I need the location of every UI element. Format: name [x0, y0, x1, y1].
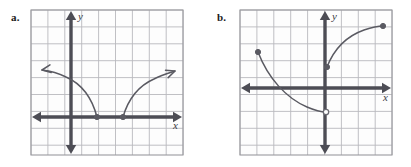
coordinate-plane-a: xy [0, 0, 205, 167]
point-right-branch-endpoint [120, 114, 125, 119]
figure-page: a. xy b. xy [0, 0, 411, 167]
graph-panel-b: b. xy [206, 0, 411, 167]
point-upper-left-endpoint [255, 49, 260, 54]
y-axis-label: y [77, 10, 83, 22]
grid-background [240, 10, 392, 155]
x-axis-label: x [382, 91, 388, 103]
point-open-endpoint [323, 109, 328, 114]
point-left-branch-endpoint [94, 114, 99, 119]
graph-panel-a: a. xy [0, 0, 205, 167]
coordinate-plane-b: xy [206, 0, 411, 167]
y-axis-label: y [331, 10, 337, 22]
grid-background [31, 10, 183, 155]
point-upper-right-endpoint [380, 23, 385, 28]
point-lower-right-endpoint [324, 64, 329, 69]
x-axis-label: x [172, 119, 178, 131]
